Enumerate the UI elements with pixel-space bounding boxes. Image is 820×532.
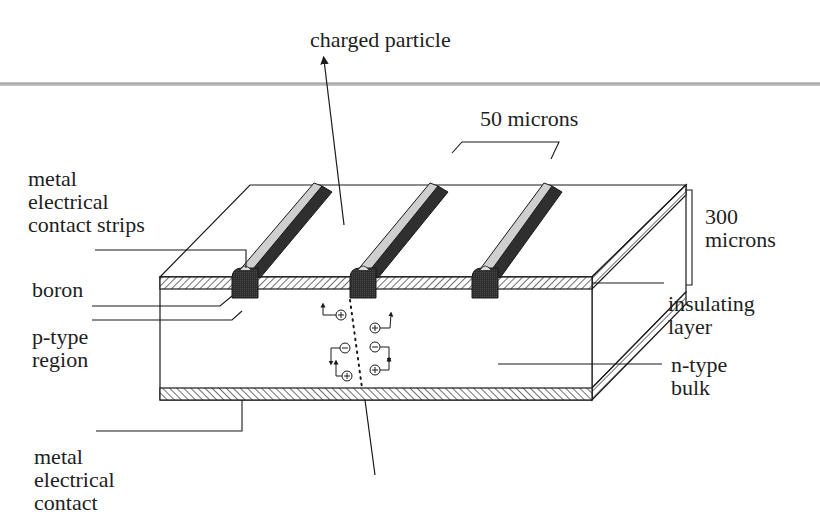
- label-strip-pitch: 50 microns: [480, 107, 578, 130]
- label-p-type-line2: region: [32, 348, 88, 371]
- label-p-type-line1: p-type: [32, 325, 88, 348]
- label-charged-particle: charged particle: [310, 28, 451, 51]
- label-back-contact-line1: metal: [34, 445, 83, 468]
- label-metal-strips-line3: contact strips: [28, 213, 145, 236]
- label-back-contact-line2: electrical: [34, 468, 115, 491]
- label-thickness-line1: 300: [705, 205, 738, 228]
- label-n-type-line1: n-type: [671, 353, 727, 376]
- page-separator: [0, 82, 820, 86]
- label-insulating-line1: insulating: [668, 292, 755, 315]
- label-metal-strips-line1: metal: [28, 167, 77, 190]
- label-metal-strips-line2: electrical: [28, 190, 109, 213]
- detector-diagram: [0, 0, 820, 532]
- label-thickness-line2: microns: [705, 228, 776, 251]
- label-boron: boron: [32, 278, 83, 301]
- label-n-type-line2: bulk: [671, 376, 710, 399]
- label-back-contact-line3: contact: [34, 491, 98, 514]
- label-insulating-line2: layer: [668, 315, 712, 338]
